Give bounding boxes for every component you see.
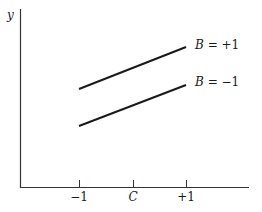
x-tick-label: C (128, 190, 137, 204)
line-b-plus-1 (79, 47, 186, 89)
interaction-plot: y −1 C +1 B = +1 B = −1 (0, 0, 262, 212)
line-label-b-plus-1: B = +1 (194, 38, 239, 52)
x-tick-label: +1 (177, 190, 195, 204)
x-tick-label: −1 (70, 190, 88, 204)
y-axis-label: y (6, 8, 14, 22)
line-b-minus-1 (79, 85, 186, 126)
line-label-b-minus-1: B = −1 (194, 75, 239, 89)
